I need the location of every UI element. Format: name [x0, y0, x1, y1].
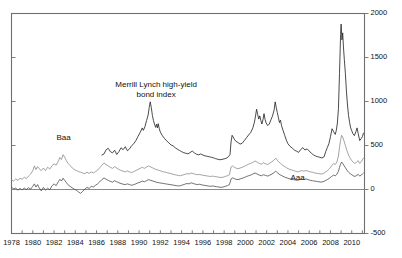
baa-label: Baa — [56, 133, 71, 142]
chart-annotations: Merrill Lynch high-yieldbond indexBaaAaa — [56, 80, 305, 181]
y-axis-ticks-right — [365, 14, 369, 234]
plot-frame — [12, 14, 365, 234]
y-tick-label: -500 — [371, 228, 386, 237]
aaa-label: Aaa — [290, 173, 305, 182]
plot-border — [12, 14, 365, 234]
x-axis-tick-labels: 1978198019821984198619881990199219941996… — [3, 238, 360, 247]
x-tick-label: 2004 — [280, 238, 297, 247]
x-tick-label: 2000 — [237, 238, 254, 247]
y-tick-label: 0 — [371, 184, 375, 193]
x-tick-label: 1978 — [3, 238, 20, 247]
x-tick-label: 1984 — [67, 238, 84, 247]
x-tick-label: 1990 — [131, 238, 148, 247]
y-axis-tick-labels: -5000500100015002000 — [371, 8, 388, 237]
y-tick-label: 500 — [371, 140, 384, 149]
y-axis-ticks-left — [12, 58, 16, 190]
chart-figure: -5000500100015002000 1978198019821984198… — [0, 0, 402, 258]
y-tick-label: 2000 — [371, 8, 388, 17]
x-tick-label: 1986 — [88, 238, 105, 247]
series-lines — [12, 24, 364, 193]
x-tick-label: 1980 — [24, 238, 41, 247]
high-yield-annotation: Merrill Lynch high-yieldbond index — [115, 80, 197, 99]
x-tick-label: 2006 — [301, 238, 318, 247]
x-tick-label: 2008 — [322, 238, 339, 247]
x-tick-label: 1992 — [152, 238, 169, 247]
x-tick-label: 2002 — [258, 238, 275, 247]
y-tick-label: 1500 — [371, 52, 388, 61]
series-line-aaa — [12, 162, 364, 193]
x-tick-label: 1996 — [195, 238, 212, 247]
x-tick-label: 1994 — [173, 238, 190, 247]
x-tick-label: 1998 — [216, 238, 233, 247]
x-tick-label: 2010 — [343, 238, 360, 247]
chart-canvas: -5000500100015002000 1978198019821984198… — [0, 0, 402, 258]
x-tick-label: 1988 — [109, 238, 126, 247]
x-tick-label: 1982 — [46, 238, 63, 247]
y-tick-label: 1000 — [371, 96, 388, 105]
